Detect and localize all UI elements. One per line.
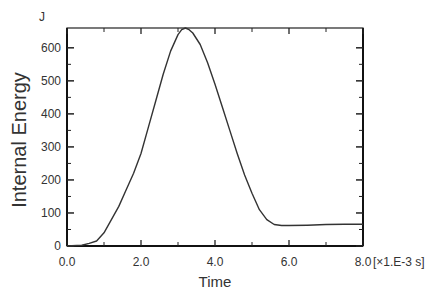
x-axis-title: Time	[199, 273, 232, 290]
plot-frame	[67, 28, 363, 246]
internal-energy-chart: 0100200300400500600 0.02.04.06.08.0 J [×…	[0, 0, 442, 303]
y-tick-label: 200	[41, 173, 61, 187]
x-tick-label: 0.0	[59, 255, 76, 269]
x-unit-label: [×1.E-3 s]	[373, 255, 425, 269]
x-tick-label: 6.0	[281, 255, 298, 269]
y-unit-label: J	[39, 10, 45, 24]
y-tick-label: 400	[41, 107, 61, 121]
y-tick-label: 0	[54, 239, 61, 253]
y-tick-label: 300	[41, 140, 61, 154]
y-tick-label: 100	[41, 206, 61, 220]
x-tick-label: 4.0	[207, 255, 224, 269]
y-tick-label: 600	[41, 41, 61, 55]
x-axis-ticks: 0.02.04.06.08.0	[59, 28, 372, 269]
energy-curve	[67, 28, 363, 246]
x-tick-label: 2.0	[133, 255, 150, 269]
y-axis-title: Internal Energy	[8, 72, 30, 208]
y-tick-label: 500	[41, 74, 61, 88]
y-axis-ticks: 0100200300400500600	[41, 41, 363, 253]
x-tick-label: 8.0	[355, 255, 372, 269]
